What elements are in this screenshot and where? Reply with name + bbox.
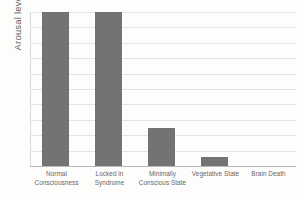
y-axis-title: Arousal level — [12, 0, 26, 70]
x-axis-tick-label-line: Locked in — [83, 169, 136, 178]
bar-slot — [83, 12, 136, 166]
bar-slot — [189, 12, 242, 166]
x-axis-tick-label-line: Brain Death — [242, 169, 295, 178]
x-axis-tick-label: Locked inSyndrome — [83, 169, 136, 187]
x-axis-tick-label-line: Conscious State — [136, 178, 189, 187]
bar[interactable] — [148, 128, 175, 167]
bar[interactable] — [201, 157, 228, 166]
x-axis-tick-labels: NormalConsciousnessLocked inSyndromeMini… — [30, 169, 296, 197]
bar-slot — [242, 12, 295, 166]
x-axis-tick-label-line: Vegetative State — [189, 169, 242, 178]
x-axis-tick-label: Brain Death — [242, 169, 295, 178]
bar[interactable] — [95, 12, 122, 166]
bar-slot — [30, 12, 83, 166]
x-axis-tick-label: MinimallyConscious State — [136, 169, 189, 187]
x-axis-tick-label-line: Normal — [30, 169, 83, 178]
plot-area — [30, 12, 296, 166]
bar-slot — [136, 12, 189, 166]
y-axis-line — [30, 12, 31, 167]
x-axis-tick-label-line: Minimally — [136, 169, 189, 178]
x-axis-tick-label-line: Syndrome — [83, 178, 136, 187]
x-axis-tick-label-line: Consciousness — [30, 178, 83, 187]
bar-series — [30, 12, 296, 166]
chart-screenshot: Arousal level NormalConsciousnessLocked … — [0, 0, 304, 199]
x-axis-tick-label: Vegetative State — [189, 169, 242, 178]
bar[interactable] — [42, 12, 69, 166]
x-axis-line — [30, 166, 296, 167]
x-axis-tick-label: NormalConsciousness — [30, 169, 83, 187]
